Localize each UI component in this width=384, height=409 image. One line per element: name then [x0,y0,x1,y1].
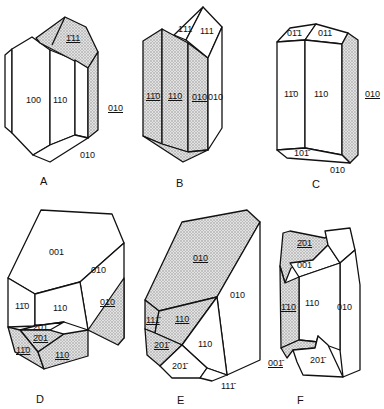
face-label: 1̄10 [281,303,296,312]
face-label: 001̄ [268,359,283,368]
face-label: 001 [49,248,64,257]
face-label: 11̄0 [284,90,298,99]
face-label: 100 [26,96,41,105]
face-label: 201̄ [172,362,187,371]
face-label: 110 [198,340,212,349]
face-label: 11̄0 [16,346,30,355]
panel-caption: F [297,394,304,406]
face-label: 111̄ [221,382,235,391]
face-label: 101̄ [294,149,309,158]
face-label: 010 [91,266,106,275]
face-label: 11̄0 [146,92,160,101]
face-label: 2̄01 [33,334,48,343]
face-label: 2̄01 [297,239,312,248]
face-label: 010 [80,151,95,160]
face-label: 110 [53,304,67,313]
crystal-a [5,17,98,162]
face-label: 010 [337,303,352,312]
panel-caption: D [36,393,44,405]
face-label: 010 [108,104,123,113]
face-label: 010 [230,291,245,300]
face-label: 110 [314,90,328,99]
face-label: 001 [297,261,312,270]
face-label: 010 [192,93,207,102]
face-label: 1̄11 [66,34,80,43]
face-label: 110 [175,315,189,324]
face-label: 110 [305,299,319,308]
face-label: 201̄ [154,341,169,350]
face-label: 110 [168,92,182,101]
face-label: 010 [208,93,223,102]
face-label: 111̄ [146,316,160,325]
face-label: 010 [193,254,208,263]
face-label: 010 [365,90,380,99]
face-label: 010 [100,298,115,307]
face-label: 010 [330,166,345,175]
panel-caption: E [177,394,184,406]
panel-caption: A [40,175,47,187]
face-label: 110 [55,351,69,360]
crystal-drawings [0,0,384,409]
panel-caption: B [176,177,183,189]
face-label: 011 [318,29,332,38]
face-label: 01̄1 [287,29,302,38]
face-label: 201̄ [310,356,325,365]
face-label: 111 [200,27,214,36]
panel-caption: C [312,178,320,190]
face-label: 1̄11 [178,25,192,34]
face-label: 2̄01 [33,323,48,332]
face-label: 110 [53,96,67,105]
face-label: 11̄0 [15,302,29,311]
